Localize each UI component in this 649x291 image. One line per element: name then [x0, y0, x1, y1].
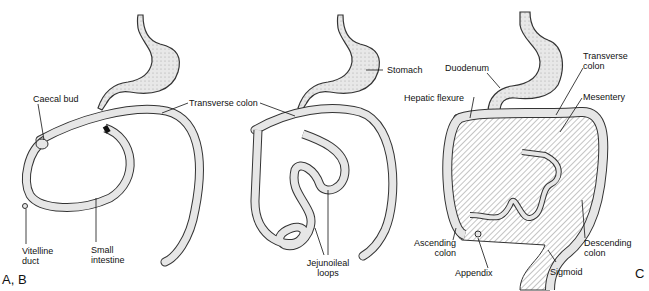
- panel-label-ab: A, B: [2, 272, 27, 287]
- label-descending-colon-line1: Descending: [584, 238, 632, 248]
- label-mesentery: Mesentery: [583, 92, 625, 102]
- label-descending-colon-line2: colon: [584, 248, 606, 258]
- label-ascending-colon-line1: Ascending: [398, 238, 456, 248]
- label-vitelline-duct-line2: duct: [22, 256, 39, 266]
- stomach-a: [98, 15, 179, 110]
- panel-b-drawing: [255, 15, 393, 256]
- label-appendix: Appendix: [455, 268, 493, 278]
- label-ascending-colon-line2: colon: [398, 248, 456, 258]
- stomach-c: [488, 12, 562, 112]
- panel-c-drawing: [447, 12, 603, 290]
- label-transverse-colon-c-line1: Transverse: [583, 51, 628, 61]
- label-stomach: Stomach: [387, 65, 423, 75]
- label-caecal-bud: Caecal bud: [33, 94, 79, 104]
- label-vitelline-duct-line1: Vitelline: [22, 246, 53, 256]
- label-jejunoileal-line2: loops: [303, 268, 353, 278]
- label-small-intestine-line1: Small: [91, 245, 114, 255]
- panel-a-drawing: [23, 15, 200, 262]
- mesentery-area: [449, 110, 600, 290]
- label-transverse-colon-a: Transverse colon: [189, 98, 258, 108]
- panel-label-c: C: [635, 266, 644, 281]
- label-hepatic-flexure: Hepatic flexure: [404, 93, 464, 103]
- label-transverse-colon-c-line2: colon: [583, 61, 605, 71]
- label-small-intestine-line2: intestine: [91, 255, 125, 265]
- label-sigmoid: Sigmoid: [550, 267, 583, 277]
- label-jejunoileal-line1: Jejunoileal: [303, 258, 353, 268]
- stomach-b: [298, 15, 379, 110]
- label-duodenum: Duodenum: [445, 63, 489, 73]
